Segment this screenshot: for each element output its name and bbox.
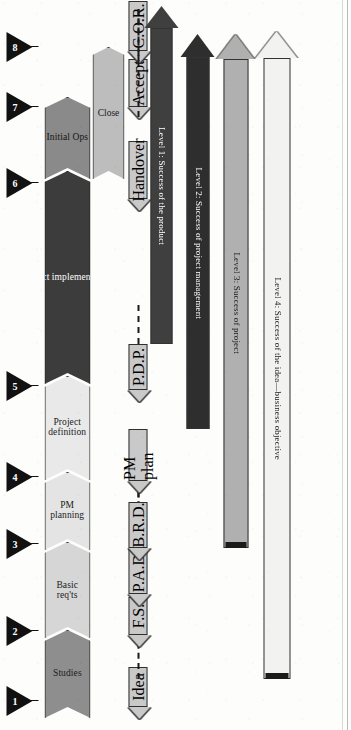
phase-label: Studies <box>53 669 82 679</box>
milestone-stem <box>30 106 38 107</box>
level-label: Level 4: Success of the idea—business ob… <box>272 277 282 460</box>
arrow-head-icon <box>216 34 254 59</box>
phase-label: Close <box>97 108 119 118</box>
level-4-arrow[interactable]: Level 4: Success of the idea—business ob… <box>263 58 290 679</box>
milestone-number: 3 <box>0 539 30 550</box>
connector-pdp-to-level1 <box>137 305 139 344</box>
arrow-head-icon <box>128 481 150 493</box>
level-2-arrow[interactable]: Level 2: Success of project management <box>186 57 209 429</box>
level-arrow-shaft: Level 4: Success of the idea—business ob… <box>263 58 290 679</box>
level-label: Level 3: Success of project <box>231 253 241 355</box>
phase-initial-ops[interactable]: Initial Ops <box>44 97 90 179</box>
phase-basic-reqts[interactable]: Basic req'ts <box>44 542 90 638</box>
milestone-number: 1 <box>0 696 30 707</box>
deliverable-box: P.D.P. <box>128 344 147 390</box>
level-arrow-shaft: Level 2: Success of project management <box>186 57 209 429</box>
milestone-number: 4 <box>0 472 30 483</box>
level-arrow-shaft: Level 3: Success of project <box>223 59 248 548</box>
level-3-arrow[interactable]: Level 3: Success of project <box>223 59 248 548</box>
arrow-head-icon <box>180 34 214 57</box>
level-arrow-tail <box>265 673 288 679</box>
milestone-number: 7 <box>0 102 30 113</box>
deliverable-box: B.R.D. <box>128 502 147 548</box>
level-label: Level 2: Success of project management <box>193 167 203 318</box>
level-arrow-shaft: Level 1: Success of the product <box>150 28 172 344</box>
phase-project-definition[interactable]: Project definition <box>44 376 90 480</box>
deliverable-label: F.S. <box>129 604 147 629</box>
arrow-head-icon <box>128 390 150 402</box>
phase-label: PM planning <box>50 501 84 520</box>
phase-band: Studies Basic req'ts PM planning Project… <box>44 0 90 730</box>
arrow-head-icon <box>144 6 178 28</box>
arrow-head-icon <box>255 31 297 58</box>
milestone-row: 1 2 3 4 5 6 7 <box>0 0 42 730</box>
milestone-stem <box>30 476 38 477</box>
phase-label: Basic req'ts <box>56 580 78 599</box>
arrow-head-icon <box>128 594 150 606</box>
deliverable-box: Handover <box>128 141 147 199</box>
level-arrow-tail <box>225 542 246 548</box>
milestone-stem <box>30 543 38 544</box>
arrow-head-icon <box>128 548 150 560</box>
milestone-stem <box>30 46 38 47</box>
arrow-head-icon <box>128 635 150 647</box>
deliverable-label: B.R.D. <box>129 503 147 548</box>
arrow-head-icon <box>128 707 150 719</box>
milestone-stem <box>30 385 38 386</box>
level-label: Level 1: Success of the product <box>156 127 166 245</box>
phase-pm-planning[interactable]: PM planning <box>44 472 90 550</box>
milestone-number: 5 <box>0 381 30 392</box>
phase-label: Initial Ops <box>46 133 87 143</box>
deliverable-label: P.D.P. <box>129 348 147 386</box>
deliverable-label: Handover <box>129 138 147 201</box>
milestone-stem <box>30 700 38 701</box>
connector-run-cor <box>137 9 139 61</box>
milestone-stem <box>30 630 38 631</box>
deliverable-label: PM plan <box>120 430 156 480</box>
milestone-number: 8 <box>0 42 30 53</box>
phase-label: Project definition <box>48 418 86 437</box>
milestone-number: 6 <box>0 178 30 189</box>
lifecycle-diagram: 1 2 3 4 5 6 7 <box>0 0 351 730</box>
phase-project-implementation[interactable]: Project implementation <box>44 171 90 384</box>
page-edge-rule-secondary <box>342 0 343 730</box>
milestone-stem <box>30 182 38 183</box>
level-1-arrow[interactable]: Level 1: Success of the product <box>150 28 172 344</box>
phase-studies[interactable]: Studies <box>44 630 90 718</box>
milestone-number: 2 <box>0 626 30 637</box>
deliverable-box: PM plan <box>128 429 147 481</box>
page-edge-rule <box>347 0 348 730</box>
phase-close[interactable]: Close <box>92 47 124 179</box>
